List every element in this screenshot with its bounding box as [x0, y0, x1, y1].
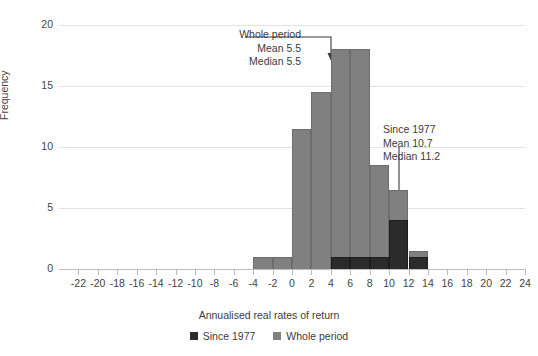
bar-since-1977 — [370, 257, 389, 269]
annotation-since-line2: Mean 10.7 — [383, 137, 440, 151]
x-tick-label: 18 — [461, 277, 473, 289]
annotation-whole-line1: Whole period — [153, 28, 301, 42]
x-tick-label: 24 — [519, 277, 531, 289]
x-tick-label: -14 — [148, 277, 163, 289]
legend-item[interactable]: Whole period — [273, 330, 348, 342]
x-tick-label: -12 — [168, 277, 183, 289]
bar-whole-period — [253, 257, 272, 269]
x-tick-label: 22 — [500, 277, 512, 289]
y-axis-title: Frequency — [0, 70, 10, 120]
legend-label: Whole period — [286, 330, 348, 342]
annotation-whole-line3: Median 5.5 — [153, 55, 301, 69]
x-tick-label: -8 — [210, 277, 219, 289]
x-tick — [525, 269, 526, 275]
x-tick-label: -22 — [71, 277, 86, 289]
x-tick-label: -16 — [129, 277, 144, 289]
x-tick-label: 8 — [367, 277, 373, 289]
x-tick-label: -2 — [268, 277, 277, 289]
y-tick-label: 5 — [27, 201, 53, 213]
x-tick-label: 20 — [480, 277, 492, 289]
legend-swatch-icon — [273, 332, 281, 340]
histogram-chart: Frequency 05101520 -22-20-18-16-14-12-10… — [0, 0, 538, 356]
x-tick-label: 16 — [441, 277, 453, 289]
x-tick-label: 2 — [308, 277, 314, 289]
y-tick-label: 0 — [27, 262, 53, 274]
x-tick-label: -10 — [187, 277, 202, 289]
bar-whole-period — [350, 49, 369, 269]
bar-whole-period — [292, 129, 311, 269]
chart-legend: Since 1977Whole period — [0, 330, 538, 342]
annotation-whole-line2: Mean 5.5 — [153, 42, 301, 56]
y-tick-label: 15 — [27, 79, 53, 91]
annotation-since-line1: Since 1977 — [383, 123, 440, 137]
x-axis-title: Annualised real rates of return — [0, 309, 538, 321]
x-tick-label: 4 — [328, 277, 334, 289]
x-tick-label: -6 — [229, 277, 238, 289]
x-tick-label: 10 — [383, 277, 395, 289]
x-tick-label: -4 — [248, 277, 257, 289]
bar-since-1977 — [331, 257, 350, 269]
x-tick-label: 12 — [403, 277, 415, 289]
legend-item[interactable]: Since 1977 — [190, 330, 256, 342]
x-tick-label: -20 — [90, 277, 105, 289]
annotation-whole-period: Whole period Mean 5.5 Median 5.5 — [153, 28, 301, 69]
bar-whole-period — [331, 49, 350, 269]
x-tick-label: 0 — [289, 277, 295, 289]
x-tick-label: 14 — [422, 277, 434, 289]
x-tick-label: -18 — [110, 277, 125, 289]
bar-whole-period — [273, 257, 292, 269]
bar-since-1977 — [409, 257, 428, 269]
legend-swatch-icon — [190, 332, 198, 340]
x-axis-baseline — [59, 269, 525, 270]
bar-since-1977 — [389, 220, 408, 269]
bar-whole-period — [370, 165, 389, 269]
bar-since-1977 — [350, 257, 369, 269]
annotation-since-line3: Median 11.2 — [383, 150, 440, 164]
annotation-since-1977: Since 1977 Mean 10.7 Median 11.2 — [383, 123, 440, 164]
x-tick-label: 6 — [347, 277, 353, 289]
y-tick-label: 20 — [27, 18, 53, 30]
y-tick-label: 10 — [27, 140, 53, 152]
bar-whole-period — [311, 92, 330, 269]
legend-label: Since 1977 — [203, 330, 256, 342]
